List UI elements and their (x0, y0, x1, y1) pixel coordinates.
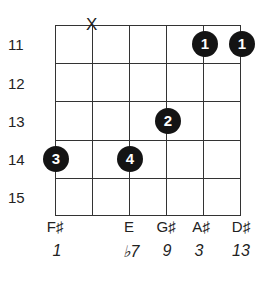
fret-label-13: 13 (8, 113, 42, 130)
fret-label-14: 14 (8, 151, 42, 168)
finger-dot-string1: 1 (229, 31, 255, 57)
note-label-string1: D♯ (226, 218, 256, 235)
string-line-5 (92, 25, 93, 216)
interval-label-string1: 13 (224, 242, 258, 260)
fret-label-11: 11 (8, 36, 42, 53)
string-line-6 (55, 25, 56, 216)
note-label-string3: G♯ (151, 218, 181, 235)
muted-string-x-icon: X (86, 16, 97, 33)
note-label-string4: E (114, 218, 144, 235)
note-label-string2: A♯ (186, 218, 216, 235)
fret-line (55, 178, 241, 179)
fret-line (55, 140, 241, 141)
fret-label-12: 12 (8, 75, 42, 92)
fret-line (55, 215, 241, 216)
fret-line (55, 25, 241, 26)
interval-label-string6: 1 (40, 242, 74, 260)
string-line-4 (129, 25, 130, 216)
finger-dot-string2: 1 (192, 31, 218, 57)
finger-dot-string4: 4 (117, 146, 143, 172)
interval-label-string3: 9 (150, 242, 184, 260)
fret-line (55, 101, 241, 102)
finger-dot-string3: 2 (155, 108, 181, 134)
fret-line (55, 63, 241, 64)
note-label-string6: F♯ (40, 218, 70, 235)
interval-label-string2: 3 (182, 242, 216, 260)
fret-label-15: 15 (8, 189, 42, 206)
interval-label-string4: ♭7 (114, 242, 148, 261)
finger-dot-string6: 3 (43, 146, 69, 172)
